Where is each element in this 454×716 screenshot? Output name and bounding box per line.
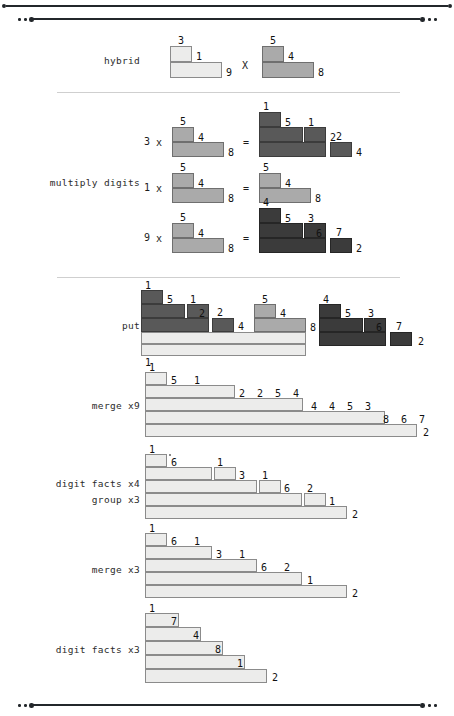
eq1-operand-digit-1: 4 bbox=[198, 133, 204, 143]
eq3-operand-step-bottom bbox=[172, 238, 224, 253]
put-left-step-3 bbox=[141, 318, 209, 332]
rule-dot-b bbox=[24, 18, 27, 21]
eq3-operand-step-top bbox=[172, 223, 194, 238]
eq1-operand-step-bottom bbox=[172, 142, 224, 157]
dfx3-digit-1: 7 bbox=[171, 617, 177, 627]
rule-dot-e bbox=[428, 18, 431, 21]
dfx3-step-3 bbox=[145, 655, 245, 669]
mx3-step-3 bbox=[145, 572, 302, 585]
hybrid-right-step-bottom bbox=[262, 62, 314, 78]
row-label-hybrid: hybrid bbox=[40, 55, 140, 67]
rule-dot-e bbox=[428, 704, 431, 707]
eq3-operand-digit-2: 8 bbox=[228, 244, 234, 254]
eq3-result-step-4 bbox=[330, 238, 352, 253]
mx3-step-2 bbox=[145, 559, 257, 572]
eq3-operand-digit-0: 5 bbox=[180, 213, 186, 223]
merge-x9-step-4 bbox=[145, 424, 417, 437]
put-right-digit-0: 4 bbox=[323, 295, 329, 305]
hybrid-left-step-top bbox=[170, 46, 192, 62]
dfx3-step-4 bbox=[145, 669, 267, 683]
dfx4-step-1 bbox=[145, 467, 212, 480]
rule-dot-b bbox=[24, 704, 27, 707]
dfx4-digit-8: 2 bbox=[352, 510, 358, 520]
dfx3-digit-5: 2 bbox=[272, 673, 278, 683]
eq1-result-step-0 bbox=[259, 112, 281, 127]
eq1-result-step-2 bbox=[304, 127, 326, 142]
merge-x9-digit-6: 4 bbox=[293, 389, 299, 399]
row-label-digit-facts-x4: digit facts x4 bbox=[20, 478, 140, 490]
dfx4-step-2 bbox=[145, 480, 257, 493]
eq2-result-digit-0: 5 bbox=[263, 163, 269, 173]
put-right-digit-5: 2 bbox=[418, 337, 424, 347]
separator-after-multiply-digits bbox=[57, 277, 400, 278]
dfx4-step-4 bbox=[145, 506, 347, 519]
row-label-put: put bbox=[40, 320, 140, 332]
eq3-result-digit-1: 5 bbox=[285, 214, 291, 224]
put-right-step-1 bbox=[319, 318, 363, 332]
hybrid-operator: X bbox=[242, 60, 248, 71]
rule-dot-f bbox=[434, 18, 437, 21]
separator-after-hybrid bbox=[57, 92, 400, 93]
eq3-times: x bbox=[156, 233, 162, 244]
dfx4-digit-0: 1 bbox=[149, 445, 155, 455]
merge-x9-digit-4: 2 bbox=[257, 389, 263, 399]
put-middle-digit-1: 4 bbox=[280, 309, 286, 319]
rule-line bbox=[33, 18, 420, 20]
eq2-times: x bbox=[156, 183, 162, 194]
eq2-operand-step-bottom bbox=[172, 188, 224, 203]
merge-x9-digit-8: 4 bbox=[329, 402, 335, 412]
dfx4-digit-1: 6 bbox=[171, 458, 177, 468]
put-left-step-4 bbox=[212, 318, 234, 332]
put-right-step-3 bbox=[319, 332, 386, 346]
dfx3-digit-4: 1 bbox=[237, 659, 243, 669]
eq1-operand-digit-0: 5 bbox=[180, 117, 186, 127]
hybrid-left-digit-2: 9 bbox=[226, 68, 232, 78]
eq3-result-digit-4: 7 bbox=[336, 228, 342, 238]
dfx4-digit-2: 1 bbox=[217, 458, 223, 468]
merge-x9-step-2 bbox=[145, 398, 303, 411]
eq2-operand-digit-1: 4 bbox=[198, 179, 204, 189]
hybrid-left-step-bottom bbox=[170, 62, 222, 78]
rule-dot-a bbox=[18, 18, 21, 21]
merge-x9-digit-9: 5 bbox=[347, 402, 353, 412]
dfx4-block-1 bbox=[214, 467, 236, 480]
eq3-equals: = bbox=[243, 233, 249, 244]
dfx4-riser-1 bbox=[169, 454, 171, 456]
put-right-step-2 bbox=[364, 318, 386, 332]
put-left-digit-2: 1 bbox=[190, 295, 196, 305]
row-label-merge-x9: merge x9 bbox=[40, 400, 140, 412]
eq3-result-digit-2: 3 bbox=[308, 214, 314, 224]
eq2-operand-step-top bbox=[172, 173, 194, 188]
hybrid-right-digit-0: 5 bbox=[270, 36, 276, 46]
merge-x9-step-0 bbox=[145, 372, 167, 385]
eq2-operand-digit-2: 8 bbox=[228, 194, 234, 204]
put-left-digit-0: 1 bbox=[145, 281, 151, 291]
eq2-multiplier: 1 bbox=[144, 182, 150, 193]
rule-dot-a bbox=[18, 704, 21, 707]
merge-x9-digit-10: 3 bbox=[365, 402, 371, 412]
eq2-operand-digit-0: 5 bbox=[180, 163, 186, 173]
eq1-operand-digit-2: 8 bbox=[228, 148, 234, 158]
put-right-digit-4: 7 bbox=[396, 322, 402, 332]
put-right-digit-1: 5 bbox=[345, 309, 351, 319]
mx3-digit-1: 6 bbox=[171, 537, 177, 547]
rule-dot-f bbox=[434, 704, 437, 707]
dfx3-digit-2: 4 bbox=[193, 631, 199, 641]
put-left-digit-5: 4 bbox=[238, 322, 244, 332]
dfx3-digit-3: 8 bbox=[215, 645, 221, 655]
eq1-result-digit-0: 1 bbox=[263, 102, 269, 112]
put-middle-step-bottom bbox=[254, 318, 306, 332]
hybrid-right-step-top bbox=[262, 46, 284, 62]
row-label-digit-facts-x3: digit facts x3 bbox=[20, 644, 140, 656]
rule-dot-c bbox=[29, 703, 34, 708]
dfx4-digit-3: 3 bbox=[239, 471, 245, 481]
eq1-times: x bbox=[156, 137, 162, 148]
mx3-step-0 bbox=[145, 533, 167, 546]
put-right-step-4 bbox=[390, 332, 412, 346]
put-middle-digit-2: 8 bbox=[310, 323, 316, 333]
merge-x9-digit-2: 1 bbox=[194, 376, 200, 386]
dfx3-digit-0: 1 bbox=[149, 604, 155, 614]
eq1-equals: = bbox=[243, 137, 249, 148]
mx3-digit-7: 1 bbox=[307, 576, 313, 586]
dfx4-step-3 bbox=[145, 493, 302, 506]
